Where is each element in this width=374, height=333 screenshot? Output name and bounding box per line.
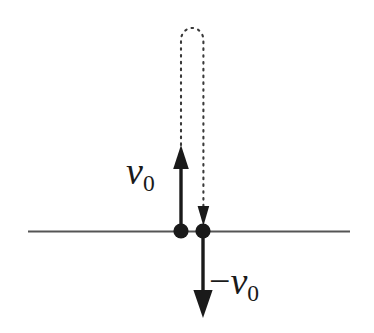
dotted-trajectory-arrowhead xyxy=(198,206,210,226)
right-dot xyxy=(195,223,210,238)
label-return-velocity-subscript: 0 xyxy=(247,280,259,306)
label-return-velocity: −v0 xyxy=(209,262,259,305)
dotted-trajectory-path xyxy=(181,28,203,211)
label-return-velocity-symbol: v xyxy=(230,260,247,302)
left-dot xyxy=(173,223,188,238)
label-initial-velocity: v0 xyxy=(126,152,155,195)
upward-velocity-arrowhead xyxy=(173,145,189,169)
velocity-diagram: v0 −v0 xyxy=(0,0,374,333)
diagram-canvas xyxy=(0,0,374,333)
label-initial-velocity-subscript: 0 xyxy=(143,170,155,196)
label-return-velocity-minus: − xyxy=(209,260,230,302)
label-initial-velocity-symbol: v xyxy=(126,150,143,192)
